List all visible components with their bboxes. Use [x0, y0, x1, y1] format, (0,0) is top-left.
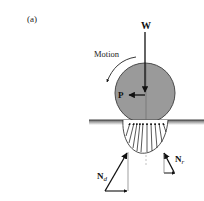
panel-label: (a)	[27, 14, 37, 24]
nd-label: Nd	[97, 171, 108, 183]
p-force-label: P	[118, 90, 124, 100]
weight-label: W	[141, 20, 151, 31]
nr-label: Nr	[175, 154, 185, 166]
motion-label: Motion	[94, 49, 120, 59]
nd-force-triangle	[105, 152, 128, 191]
nr-force-triangle	[164, 153, 175, 173]
rolling-resistance-diagram: (a) W Motion P Nd Nr	[0, 0, 204, 201]
